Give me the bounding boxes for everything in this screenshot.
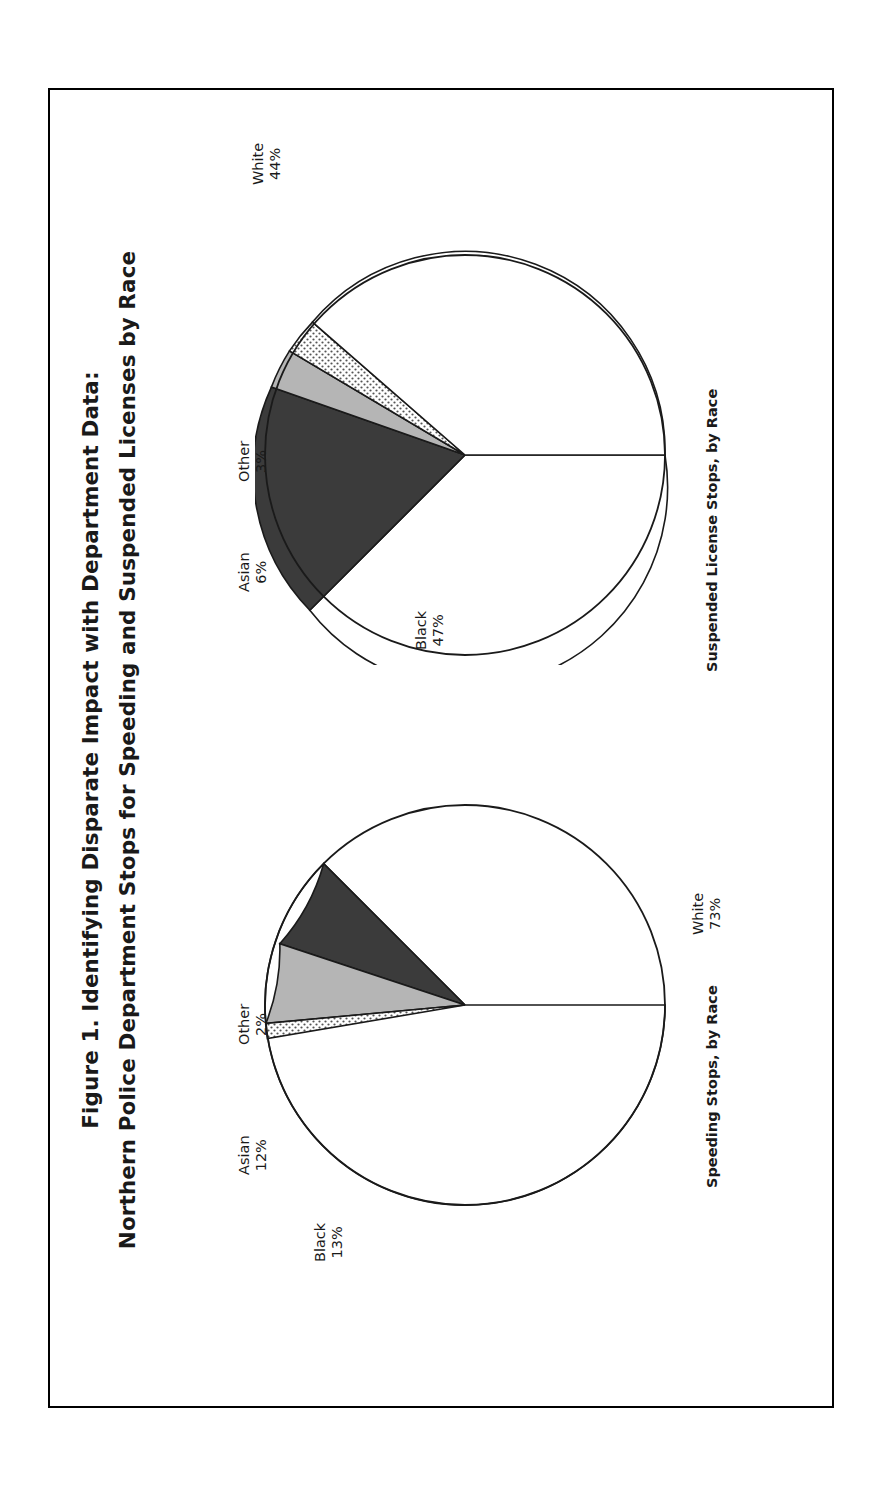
pie2-label-white: White 44% — [250, 143, 284, 185]
pie1-label-asian: Asian 12% — [236, 1135, 270, 1175]
pie2-label-black: Black 47% — [413, 611, 447, 650]
figure-title-line-2: Northern Police Department Stops for Spe… — [115, 251, 142, 1249]
pie1-label-other: Other 2% — [236, 1004, 270, 1045]
figure-title-line-1: Figure 1. Identifying Disparate Impact w… — [78, 371, 105, 1128]
pie1-label-black: Black 13% — [312, 1223, 346, 1262]
pie-chart-speeding-svg — [255, 795, 675, 1215]
pie1-label-white: White 73% — [690, 893, 724, 935]
pie-chart-speeding — [255, 795, 675, 1215]
pie2-label-asian: Asian 6% — [236, 552, 270, 592]
pie1-caption: Speeding Stops, by Race — [704, 985, 720, 1188]
pie2-caption: Suspended License Stops, by Race — [704, 389, 720, 672]
pie-chart-suspended-license-svg — [255, 245, 675, 665]
pie-chart-suspended-license — [255, 245, 675, 665]
figure-title: Figure 1. Identifying Disparate Impact w… — [50, 90, 170, 1410]
figure-frame: Figure 1. Identifying Disparate Impact w… — [48, 88, 834, 1408]
pie2-label-other: Other 3% — [236, 441, 270, 482]
